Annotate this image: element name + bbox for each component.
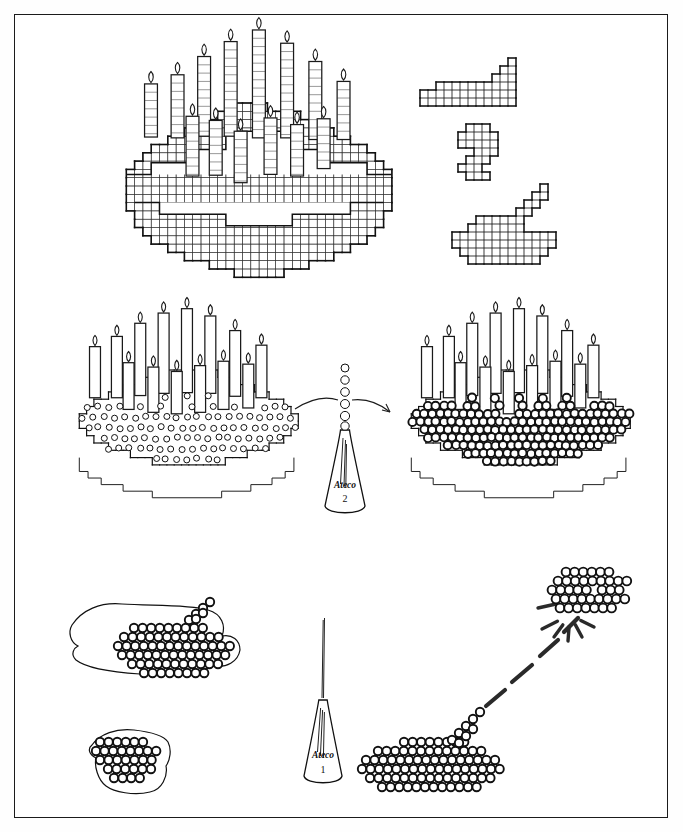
- page-frame: [14, 14, 668, 818]
- pattern-sheet: Ateco 2 Ateco 1: [0, 0, 683, 832]
